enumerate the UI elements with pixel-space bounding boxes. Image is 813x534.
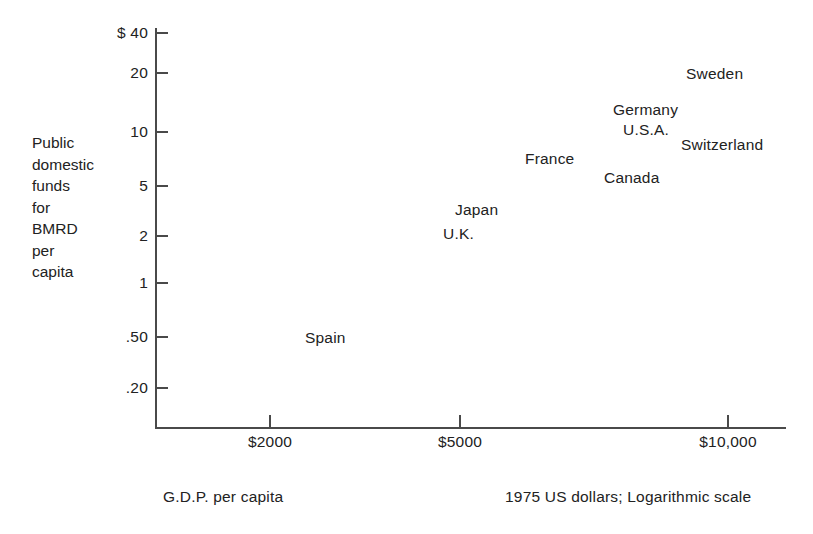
y-tick-mark [156, 72, 168, 74]
y-tick-label-wrap: 20 [0, 64, 148, 82]
y-tick-label: 10 [48, 123, 148, 141]
y-tick-label-wrap: 5 [0, 177, 148, 195]
data-point-label-japan: Japan [455, 201, 498, 219]
y-tick-mark [156, 235, 168, 237]
y-tick-label: $ 40 [48, 24, 148, 42]
y-tick-label-wrap: 10 [0, 123, 148, 141]
y-tick-mark [156, 282, 168, 284]
y-tick-label-wrap: .50 [0, 328, 148, 346]
x-tick-label: $10,000 [699, 433, 756, 451]
y-tick-mark [156, 387, 168, 389]
x-axis-caption: G.D.P. per capita [163, 488, 283, 506]
y-tick-label-wrap: .20 [0, 379, 148, 397]
chart-figure: Public domestic funds for BMRD per capit… [0, 0, 813, 534]
y-tick-label: 5 [48, 177, 148, 195]
data-point-label-uk: U.K. [443, 225, 474, 243]
y-tick-mark [156, 336, 168, 338]
y-tick-label: 2 [48, 227, 148, 245]
y-tick-label-wrap: 2 [0, 227, 148, 245]
y-axis-title-line: domestic [32, 154, 124, 176]
y-axis-line [155, 28, 157, 429]
y-tick-mark [156, 185, 168, 187]
y-tick-label: .20 [48, 379, 148, 397]
y-tick-label: 20 [48, 64, 148, 82]
x-tick-mark [269, 415, 271, 428]
data-point-label-canada: Canada [604, 169, 660, 187]
y-axis-title-line: for [32, 197, 124, 219]
x-tick-mark [459, 415, 461, 428]
data-point-label-france: France [525, 150, 574, 168]
x-tick-label: $2000 [248, 433, 292, 451]
data-point-label-switzerland: Switzerland [681, 136, 763, 154]
y-tick-mark [156, 32, 168, 34]
x-tick-mark [727, 415, 729, 428]
y-tick-label-wrap: 1 [0, 274, 148, 292]
y-tick-label-wrap: $ 40 [0, 24, 148, 42]
data-point-label-germany: Germany [613, 101, 678, 119]
data-point-label-usa: U.S.A. [623, 121, 669, 139]
y-tick-label: 1 [48, 274, 148, 292]
data-point-label-spain: Spain [305, 329, 346, 347]
y-tick-label: .50 [48, 328, 148, 346]
x-axis-line [155, 427, 786, 429]
x-tick-label: $5000 [438, 433, 482, 451]
data-point-label-sweden: Sweden [686, 65, 743, 83]
y-axis-title: Public domestic funds for BMRD per capit… [32, 132, 124, 283]
scale-note-caption: 1975 US dollars; Logarithmic scale [505, 488, 751, 506]
y-tick-mark [156, 131, 168, 133]
